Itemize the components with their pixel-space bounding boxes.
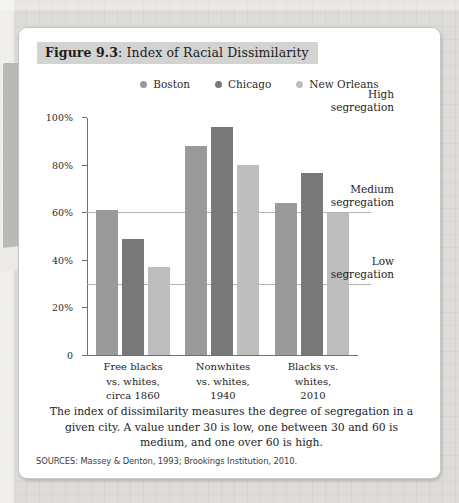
y-tick-20: 20% bbox=[82, 307, 87, 308]
x-axis-label-line: Blacks vs. bbox=[271, 360, 355, 375]
figure-number: Figure 9.3 bbox=[45, 45, 118, 60]
bar-new-orleans bbox=[237, 165, 259, 355]
bar-group bbox=[275, 118, 349, 355]
legend-swatch-icon bbox=[215, 81, 222, 88]
x-axis-label-line: vs. whites, bbox=[181, 375, 265, 390]
bar-chicago bbox=[211, 127, 233, 355]
y-tick-label: 60% bbox=[52, 207, 73, 218]
bar-groups bbox=[88, 118, 357, 355]
legend-item-boston: Boston bbox=[140, 78, 190, 90]
x-axis-label-line: vs. whites, bbox=[91, 375, 175, 390]
zone-label-medium: Mediumsegregation bbox=[308, 183, 394, 213]
y-tick-40: 40% bbox=[82, 260, 87, 261]
x-axis-label: Nonwhitesvs. whites,1940 bbox=[181, 360, 265, 404]
figure-title: Figure 9.3: Index of Racial Dissimilarit… bbox=[37, 42, 318, 64]
plot-area: 020%40%60%80%100% bbox=[87, 118, 357, 356]
figure-sources: SOURCES: Massey & Denton, 1993; Brooking… bbox=[36, 456, 297, 466]
bar-boston bbox=[185, 146, 207, 355]
bar-new-orleans bbox=[148, 267, 170, 355]
bar-group bbox=[185, 118, 259, 355]
x-axis-line bbox=[87, 355, 358, 356]
x-axis-label-line: Nonwhites bbox=[181, 360, 265, 375]
figure-title-text: Index of Racial Dissimilarity bbox=[126, 45, 308, 60]
y-tick-0: 0 bbox=[82, 355, 87, 356]
y-tick-label: 80% bbox=[52, 159, 73, 170]
bar-boston bbox=[96, 210, 118, 355]
y-tick-label: 20% bbox=[52, 302, 73, 313]
zone-label-high: Highsegregation bbox=[308, 88, 394, 118]
x-axis-label-line: Free blacks bbox=[91, 360, 175, 375]
y-tick-label: 0 bbox=[67, 350, 73, 361]
zone-label-line2: segregation bbox=[308, 267, 394, 280]
legend-swatch-icon bbox=[140, 81, 147, 88]
x-axis-label: Blacks vs.whites,2010 bbox=[271, 360, 355, 404]
zone-label-line1: Low bbox=[308, 254, 394, 267]
zone-label-low: Lowsegregation bbox=[308, 254, 394, 284]
y-tick-80: 80% bbox=[82, 165, 87, 166]
x-axis-label: Free blacksvs. whites,circa 1860 bbox=[91, 360, 175, 404]
figure-card: Figure 9.3: Index of Racial Dissimilarit… bbox=[18, 27, 441, 479]
bar-group bbox=[96, 118, 170, 355]
zone-label-line2: segregation bbox=[308, 101, 394, 114]
zone-label-line2: segregation bbox=[308, 196, 394, 209]
y-tick-100: 100% bbox=[82, 117, 87, 118]
y-tick-label: 100% bbox=[46, 112, 73, 123]
x-axis-label-line: 2010 bbox=[271, 389, 355, 404]
x-axis-labels: Free blacksvs. whites,circa 1860Nonwhite… bbox=[88, 360, 358, 404]
x-axis-label-line: circa 1860 bbox=[91, 389, 175, 404]
legend-label: Boston bbox=[153, 78, 190, 90]
bar-chicago bbox=[122, 239, 144, 355]
legend-item-chicago: Chicago bbox=[215, 78, 271, 90]
zone-label-line1: High bbox=[308, 88, 394, 101]
legend-label: Chicago bbox=[228, 78, 271, 90]
bar-boston bbox=[275, 203, 297, 355]
x-axis-label-line: whites, bbox=[271, 375, 355, 390]
y-tick-label: 40% bbox=[52, 254, 73, 265]
plot-wrapper: 020%40%60%80%100% HighsegregationMediums… bbox=[19, 106, 441, 396]
zone-label-line1: Medium bbox=[308, 183, 394, 196]
figure-caption: The index of dissimilarity measures the … bbox=[49, 404, 414, 451]
x-axis-label-line: 1940 bbox=[181, 389, 265, 404]
legend-swatch-icon bbox=[296, 81, 303, 88]
